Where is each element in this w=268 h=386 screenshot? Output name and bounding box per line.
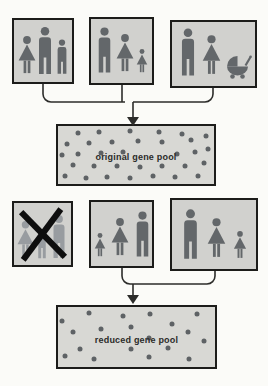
- gene-dot: [59, 318, 64, 323]
- gene-dot: [63, 173, 68, 178]
- gene-dot: [64, 141, 69, 146]
- gene-dot: [127, 129, 132, 134]
- family-1-figures: [14, 20, 71, 81]
- gene-dot: [160, 163, 165, 168]
- reduced-pool-label: reduced gene pool: [58, 335, 215, 345]
- girl-icon: [95, 233, 106, 256]
- woman-icon: [112, 218, 129, 255]
- diagram-canvas: original gene pool reduced gene pool: [0, 0, 268, 386]
- family-3-figures: [172, 22, 254, 85]
- family-box-4: [12, 201, 73, 267]
- gene-dot: [77, 347, 82, 352]
- gene-dot: [87, 310, 92, 315]
- girl-icon: [137, 49, 148, 72]
- family-box-3: [170, 20, 257, 88]
- gene-dot: [84, 175, 89, 180]
- gene-dot: [109, 140, 114, 145]
- man-icon: [184, 209, 197, 258]
- gene-dot: [195, 312, 200, 317]
- gene-dot: [203, 133, 208, 138]
- gene-dot: [98, 326, 103, 331]
- gene-dot: [150, 173, 155, 178]
- family-box-6: [170, 198, 258, 271]
- gene-dot: [182, 164, 187, 169]
- gene-dot: [179, 132, 184, 137]
- family-6-figures: [172, 200, 255, 268]
- gene-dot: [92, 357, 97, 362]
- gene-dot: [121, 313, 126, 318]
- gene-dot: [105, 174, 110, 179]
- family-box-5: [89, 200, 154, 268]
- gene-dot: [71, 162, 76, 167]
- family-2-figures: [91, 19, 151, 82]
- gene-dot: [63, 353, 68, 358]
- gene-dot: [127, 175, 132, 180]
- connector-bottom-left: [122, 268, 133, 284]
- gene-dot: [97, 130, 102, 135]
- gene-dot: [160, 140, 165, 145]
- arrow-down-icon: [127, 295, 139, 304]
- gene-dot: [173, 174, 178, 179]
- gene-dot: [195, 173, 200, 178]
- connector-bottom-right: [133, 271, 215, 284]
- gene-dot: [166, 345, 171, 350]
- family-box-1: [12, 18, 74, 84]
- man-icon: [99, 28, 111, 73]
- gene-dot: [137, 165, 142, 170]
- cross-out-icon: [14, 203, 71, 265]
- girl-icon: [234, 231, 246, 258]
- woman-icon: [208, 218, 226, 257]
- man-icon: [137, 212, 149, 257]
- gene-dot: [156, 129, 161, 134]
- woman-icon: [117, 34, 134, 71]
- gene-dot: [76, 130, 81, 135]
- gene-dot: [92, 164, 97, 169]
- connector-top-left: [43, 84, 125, 102]
- gene-dot: [146, 355, 151, 360]
- gene-dot: [114, 163, 119, 168]
- gene-dot: [148, 312, 153, 317]
- connector-top-right: [133, 88, 213, 102]
- man-icon: [39, 27, 51, 74]
- man-icon: [182, 28, 194, 75]
- original-pool-label: original gene pool: [58, 152, 214, 162]
- original-gene-pool-box: original gene pool: [56, 124, 216, 186]
- family-box-2: [89, 17, 154, 85]
- woman-icon: [19, 36, 36, 73]
- pram-icon: [227, 56, 252, 79]
- gene-dot: [129, 325, 134, 330]
- gene-dot: [129, 347, 134, 352]
- gene-dot: [187, 357, 192, 362]
- gene-dot: [205, 146, 210, 151]
- gene-dot: [169, 321, 174, 326]
- gene-dot: [189, 138, 194, 143]
- family-5-figures: [91, 202, 151, 265]
- woman-icon: [203, 35, 221, 74]
- gene-dot: [135, 138, 140, 143]
- gene-dot: [87, 141, 92, 146]
- boy-icon: [58, 39, 67, 73]
- reduced-gene-pool-box: reduced gene pool: [56, 305, 217, 369]
